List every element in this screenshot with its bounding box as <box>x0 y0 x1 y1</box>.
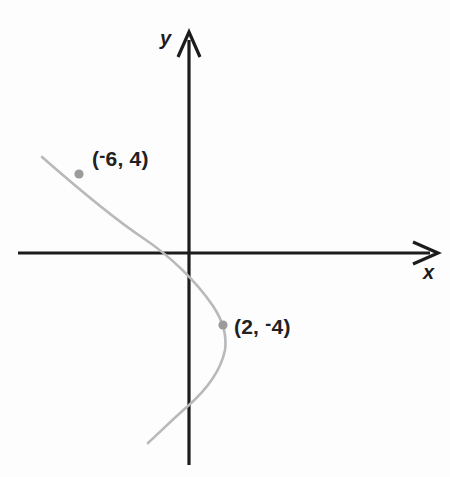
point-label-a-x-value: 6 <box>106 147 118 170</box>
point-label-b-y-sign: - <box>265 314 271 334</box>
y-axis <box>178 32 200 465</box>
point-label-b-y-value: 4 <box>272 315 284 338</box>
coordinate-plane-svg <box>0 0 450 477</box>
point-marker-b <box>218 320 227 329</box>
point-marker-a <box>74 169 83 178</box>
point-label-2-negative-4: (2, -4) <box>234 315 291 337</box>
point-label-a-y-value: 4 <box>130 147 142 170</box>
y-axis-label: y <box>160 28 171 48</box>
parabola-curve <box>42 157 226 443</box>
x-axis <box>18 242 438 264</box>
point-label-b-close: ) <box>283 315 290 338</box>
point-label-b-separator: , <box>253 315 265 338</box>
point-label-b-x-value: 2 <box>241 315 253 338</box>
point-label-negative-6-4: (-6, 4) <box>92 147 149 169</box>
parabola-path <box>42 157 226 443</box>
marked-points <box>74 169 227 329</box>
x-axis-label: x <box>423 262 434 282</box>
point-label-a-close: ) <box>141 147 148 170</box>
point-label-a-x-sign: - <box>99 146 105 166</box>
point-label-a-separator: , <box>117 147 129 170</box>
graph-figure: y x (-6, 4) (2, -4) <box>0 0 450 477</box>
